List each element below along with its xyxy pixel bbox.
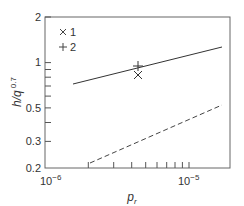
y-tick-1: 1: [35, 56, 41, 68]
y-tick-2: 2: [35, 11, 41, 23]
data-point-1-cross-icon: [134, 71, 142, 79]
legend: 1 2: [59, 26, 76, 53]
legend-plus-icon: [59, 43, 67, 51]
legend-cross-icon: [60, 29, 66, 35]
x-axis-ticks: [88, 162, 189, 168]
x-tick-1e-6: 10−6: [40, 173, 62, 187]
y-axis-label: h/q0.7: [9, 77, 24, 107]
dashed-series-line: [90, 105, 222, 163]
y-tick-0.3: 0.3: [26, 135, 41, 147]
legend-label-2: 2: [70, 41, 76, 53]
plot-frame: [45, 17, 230, 168]
solid-series-line: [73, 47, 222, 84]
legend-label-1: 1: [70, 26, 76, 38]
x-tick-1e-5: 10−5: [178, 173, 200, 187]
y-tick-0.2: 0.2: [26, 162, 41, 174]
y-tick-0.5: 0.5: [26, 102, 41, 114]
chart: 2 1 0.5 0.3 0.2 10−6 10−5 pr h/q0.7 1 2: [0, 0, 244, 206]
data-point-2-plus-icon: [133, 61, 143, 71]
y-axis-ticks: [45, 17, 51, 141]
x-axis-label: pr: [126, 190, 137, 206]
